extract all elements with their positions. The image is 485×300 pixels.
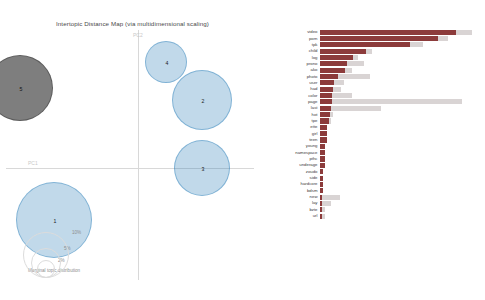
intertopic-distance-map-panel: Intertopic Distance Map (via multidimens… xyxy=(0,0,258,300)
term-label[interactable]: bdsm xyxy=(307,188,318,194)
term-label[interactable]: new xyxy=(310,194,318,200)
term-bar-track xyxy=(320,163,483,168)
topic-bubble-5[interactable]: 5 xyxy=(0,55,53,121)
term-label[interactable]: last xyxy=(311,105,318,111)
size-legend-ring-10pct xyxy=(23,232,69,278)
term-label[interactable]: lay xyxy=(312,200,318,206)
intertopic-map-title: Intertopic Distance Map (via multidimens… xyxy=(56,20,209,27)
intertopic-map-plot[interactable]: PC1 PC2 54231 Marginal topic distributio… xyxy=(6,30,254,280)
term-label[interactable]: side xyxy=(310,175,318,181)
term-bar-track xyxy=(320,182,483,187)
bar-topic-frequency xyxy=(320,61,347,66)
bar-topic-frequency xyxy=(320,188,324,193)
bar-topic-frequency xyxy=(320,30,456,35)
bar-topic-frequency xyxy=(320,87,333,92)
term-label[interactable]: hot xyxy=(312,112,318,118)
term-label[interactable]: had xyxy=(310,86,317,92)
term-label[interactable]: photo xyxy=(307,74,318,80)
term-bar-track xyxy=(320,112,483,117)
term-label[interactable]: video xyxy=(307,29,317,35)
term-bar-track xyxy=(320,80,483,85)
bar-topic-frequency xyxy=(320,42,410,47)
term-label[interactable]: user xyxy=(309,80,317,86)
bar-topic-frequency xyxy=(320,55,353,60)
term-bar-track xyxy=(320,55,483,60)
term-label[interactable]: prono xyxy=(307,61,318,67)
term-bar-track xyxy=(320,137,483,142)
term-label[interactable]: hardcore xyxy=(301,181,318,187)
topic-bubble-2[interactable]: 2 xyxy=(172,70,232,130)
bar-topic-frequency xyxy=(320,99,332,104)
term-bar-track xyxy=(320,99,483,104)
term-label[interactable]: tpe xyxy=(312,118,318,124)
axis-label-pc2: PC2 xyxy=(133,32,143,38)
bar-topic-frequency xyxy=(320,176,324,181)
term-bar-track xyxy=(320,87,483,92)
bar-topic-frequency xyxy=(320,169,324,174)
term-bar-track xyxy=(320,201,483,206)
term-label[interactable]: color xyxy=(308,93,317,99)
term-bar-track xyxy=(320,207,483,212)
bar-topic-frequency xyxy=(320,118,329,123)
term-label[interactable]: porn xyxy=(309,36,318,42)
top-terms-panel: Top-30 Most Relevant Terms for Topic 5 (… xyxy=(258,0,485,300)
term-row[interactable]: url xyxy=(261,213,485,219)
bar-topic-frequency xyxy=(320,68,345,73)
term-label[interactable]: ette xyxy=(310,124,317,130)
bar-topic-frequency xyxy=(320,195,323,200)
term-label[interactable]: underage xyxy=(299,162,317,168)
topic-bubble-3[interactable]: 3 xyxy=(174,140,230,196)
term-bar-track xyxy=(320,169,483,174)
term-bar-track xyxy=(320,188,483,193)
bar-topic-frequency xyxy=(320,131,328,136)
term-label[interactable]: log xyxy=(312,55,318,61)
size-legend-label-10pct: 10% xyxy=(72,230,81,235)
term-bar-track xyxy=(320,195,483,200)
term-label[interactable]: url xyxy=(313,213,318,219)
term-label[interactable]: teen xyxy=(309,137,317,143)
term-bar-track xyxy=(320,68,483,73)
term-bar-track xyxy=(320,74,483,79)
bar-topic-frequency xyxy=(320,137,327,142)
topic-bubble-4[interactable]: 4 xyxy=(145,41,187,83)
axis-label-pc1: PC1 xyxy=(28,160,38,166)
term-label[interactable]: bzte xyxy=(309,207,317,213)
bar-topic-frequency xyxy=(320,214,323,219)
bar-topic-frequency xyxy=(320,106,331,111)
term-bar-track xyxy=(320,36,483,41)
bar-overall-frequency xyxy=(320,99,462,104)
bar-topic-frequency xyxy=(320,201,323,206)
term-label[interactable]: girl xyxy=(312,131,318,137)
term-bar-track xyxy=(320,49,483,54)
term-bar-track xyxy=(320,93,483,98)
term-bar-track xyxy=(320,150,483,155)
term-label[interactable]: namespace xyxy=(295,150,317,156)
term-bar-chart[interactable]: videoporntpkchildlogpronoakophotouserhad… xyxy=(261,29,485,219)
term-bar-track xyxy=(320,156,483,161)
term-bar-track xyxy=(320,176,483,181)
term-label[interactable]: child xyxy=(309,48,318,54)
bar-topic-frequency xyxy=(320,74,338,79)
bar-topic-frequency xyxy=(320,150,326,155)
bar-topic-frequency xyxy=(320,93,332,98)
term-bar-track xyxy=(320,118,483,123)
term-label[interactable]: pthc xyxy=(309,156,317,162)
term-bar-track xyxy=(320,106,483,111)
topic-bubble-label: 3 xyxy=(202,166,205,172)
bar-topic-frequency xyxy=(320,207,323,212)
bar-topic-frequency xyxy=(320,49,366,54)
term-label[interactable]: young xyxy=(306,143,318,149)
bar-topic-frequency xyxy=(320,112,330,117)
term-label[interactable]: tpk xyxy=(312,42,318,48)
term-bar-track xyxy=(320,30,483,35)
bar-topic-frequency xyxy=(320,156,325,161)
term-label[interactable]: zoudo xyxy=(306,169,318,175)
bar-topic-frequency xyxy=(320,163,325,168)
bar-overall-frequency xyxy=(320,195,340,200)
topic-bubble-label: 5 xyxy=(20,86,23,92)
term-bar-track xyxy=(320,144,483,149)
term-label[interactable]: page xyxy=(308,99,318,105)
term-label[interactable]: ako xyxy=(311,67,318,73)
bar-topic-frequency xyxy=(320,182,324,187)
topic-bubble-label: 1 xyxy=(54,218,57,224)
